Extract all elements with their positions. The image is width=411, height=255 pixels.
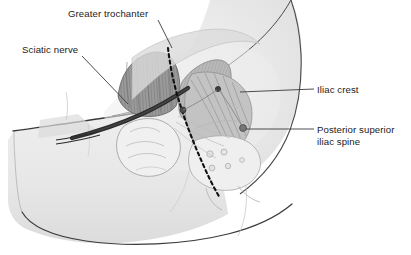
psis-label-line-2: iliac spine xyxy=(317,136,360,147)
psis-label-line-1: Posterior superior xyxy=(317,124,395,135)
label-posterior-superior-iliac-spine: Posterior superioriliac spine xyxy=(317,124,395,147)
leader-sciatic-nerve xyxy=(82,56,128,104)
posterior-superior-iliac-spine-marker xyxy=(240,125,247,132)
label-iliac-crest: Iliac crest xyxy=(317,84,359,96)
anatomy-figure: Greater trochanter Sciatic nerve Iliac c… xyxy=(0,0,411,255)
femoral-head xyxy=(117,119,181,177)
label-sciatic-nerve: Sciatic nerve xyxy=(22,44,78,56)
label-greater-trochanter: Greater trochanter xyxy=(68,8,148,20)
